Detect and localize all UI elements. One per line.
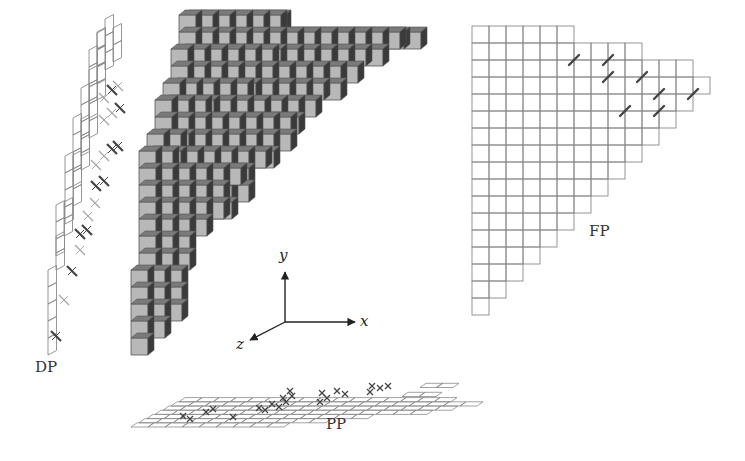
cube-stack-3d bbox=[131, 10, 427, 355]
dp-label: DP bbox=[35, 358, 57, 376]
diagonal-projection-strip bbox=[48, 15, 125, 356]
plane-projection-grid bbox=[131, 383, 483, 427]
lattice-figure bbox=[0, 0, 745, 461]
axis-label-z: z bbox=[236, 335, 244, 353]
front-projection-grid bbox=[472, 26, 710, 315]
coordinate-axes bbox=[250, 272, 355, 340]
axis-label-y: y bbox=[279, 246, 287, 264]
fp-label: FP bbox=[589, 222, 610, 240]
pp-label: PP bbox=[326, 415, 346, 433]
axis-label-x: x bbox=[360, 312, 368, 330]
